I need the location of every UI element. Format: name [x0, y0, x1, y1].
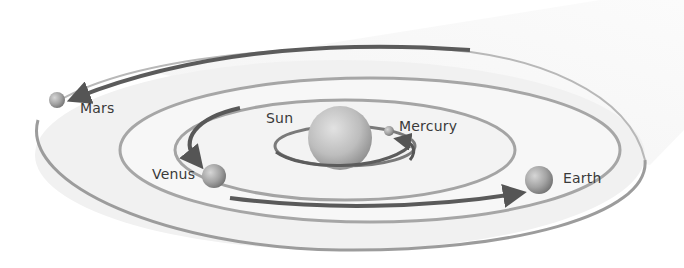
- mercury-sphere: [384, 126, 394, 136]
- sun-label: Sun: [266, 110, 293, 126]
- mars-sphere: [49, 92, 65, 108]
- venus-label: Venus: [152, 166, 195, 182]
- mars-label: Mars: [80, 100, 115, 116]
- sun-sphere: [308, 106, 372, 170]
- mercury-label: Mercury: [399, 118, 457, 134]
- venus-sphere: [202, 164, 226, 188]
- solar-system-diagram: [0, 0, 684, 268]
- earth-label: Earth: [563, 170, 602, 186]
- earth-sphere: [525, 166, 553, 194]
